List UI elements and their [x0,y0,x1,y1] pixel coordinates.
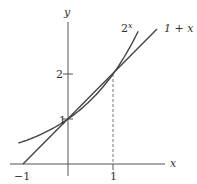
line-1-plus-x [23,29,157,164]
chart: y x 2 1 −1 1 2x 1 + x [0,0,197,184]
x-tick-label-neg1: −1 [14,170,30,183]
x-axis-label: x [170,157,177,170]
series-label-2-pow-x: 2x [121,21,133,35]
series-label-1-plus-x: 1 + x [164,22,194,35]
curve-2-pow-x [19,31,139,143]
y-tick-label-1: 1 [59,114,66,127]
y-axis-label: y [63,6,71,19]
x-tick-label-1: 1 [110,170,117,183]
y-tick-label-2: 2 [56,68,63,81]
